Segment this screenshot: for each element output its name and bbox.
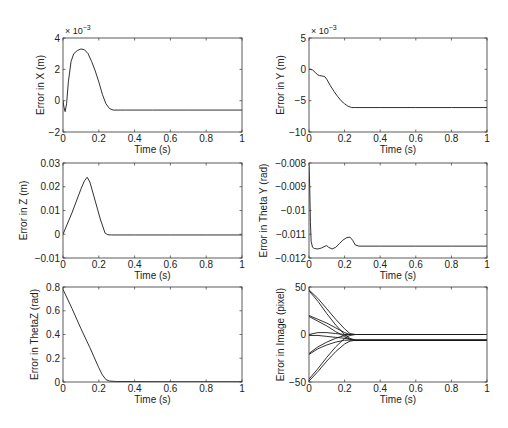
y-tick-label: 0: [54, 95, 60, 106]
series-line-f2: [309, 291, 487, 340]
y-tick-label: 50: [295, 282, 307, 293]
y-tick-label: 2: [54, 64, 60, 75]
axes-box: [309, 38, 487, 132]
x-tick-label: 1: [484, 259, 490, 270]
series-line-x-error: [63, 49, 242, 112]
x-tick-label: 0.4: [373, 133, 387, 144]
x-tick-label: 0.6: [163, 259, 177, 270]
y-tick-label: −50: [289, 377, 306, 388]
x-tick-label: 0.6: [409, 383, 423, 394]
y-tick-label: −10: [289, 127, 306, 138]
x-tick-label: 0.2: [92, 133, 106, 144]
x-tick-label: 0.2: [338, 133, 352, 144]
series-line-y-error: [309, 69, 487, 107]
x-tick-label: 0: [60, 133, 66, 144]
y-tick-label: −5: [295, 95, 307, 106]
x-tick-label: 1: [239, 133, 245, 144]
x-tick-label: 1: [484, 383, 490, 394]
series-line-z-error: [63, 177, 242, 235]
y-tick-label: 0: [300, 64, 306, 75]
y-axis-label: Error in Y (m): [275, 55, 286, 115]
series-line-theta-z-error: [63, 289, 242, 381]
thetaz-error-subplot: 00.20.40.60.8100.20.40.60.8Time (s)Error…: [29, 282, 245, 406]
axes-box: [63, 163, 242, 258]
x-tick-label: 0.8: [199, 259, 213, 270]
thetay-error-subplot: 00.20.40.60.81−0.012−0.011−0.01−0.009−0.…: [258, 158, 490, 282]
x-error-subplot: 00.20.40.60.81−2024× 10−3Time (s)Error i…: [35, 24, 245, 155]
x-axis-label: Time (s): [134, 270, 170, 281]
y-tick-label: −2: [49, 127, 61, 138]
y-tick-label: 0.01: [41, 205, 61, 216]
x-tick-label: 0: [306, 133, 312, 144]
x-tick-label: 0: [306, 383, 312, 394]
x-tick-label: 0.6: [163, 133, 177, 144]
y-tick-label: −0.008: [275, 158, 306, 169]
y-axis-label: Error in Z (m): [18, 181, 29, 240]
x-axis-label: Time (s): [380, 394, 416, 405]
y-tick-label: 4: [54, 33, 60, 44]
y-tick-label: 0.03: [41, 158, 61, 169]
z-error-subplot: 00.20.40.60.81−0.0100.010.020.03Time (s)…: [18, 158, 245, 282]
y-axis-label: Error in ThetaZ (rad): [29, 289, 40, 380]
x-tick-label: 1: [239, 259, 245, 270]
x-axis-label: Time (s): [380, 144, 416, 155]
y-tick-label: −0.012: [275, 253, 306, 264]
x-axis-label: Time (s): [380, 270, 416, 281]
axes-box: [63, 287, 242, 382]
x-tick-label: 0.2: [92, 259, 106, 270]
x-axis-label: Time (s): [134, 394, 170, 405]
x-axis-label: Time (s): [134, 144, 170, 155]
series-line-f6: [309, 335, 487, 340]
x-tick-label: 1: [484, 133, 490, 144]
x-tick-label: 0: [60, 383, 66, 394]
y-tick-label: 0: [300, 329, 306, 340]
x-tick-label: 0.4: [128, 133, 142, 144]
y-tick-label: 0: [54, 377, 60, 388]
x-tick-label: 0.6: [163, 383, 177, 394]
figure: 00.20.40.60.81−2024× 10−3Time (s)Error i…: [0, 0, 508, 428]
x-tick-label: 0.8: [444, 133, 458, 144]
y-tick-label: −0.01: [281, 205, 307, 216]
x-tick-label: 0.2: [92, 383, 106, 394]
x-tick-label: 0.4: [128, 383, 142, 394]
series-line-theta-y-error: [309, 165, 487, 249]
y-tick-label: 0: [54, 229, 60, 240]
x-tick-label: 0.4: [128, 259, 142, 270]
axes-box: [63, 38, 242, 132]
y-axis-label: Error in Image (pixel): [275, 288, 286, 381]
exponent-label: × 10−3: [65, 24, 91, 36]
y-tick-label: 0.8: [46, 282, 60, 293]
y-tick-label: −0.009: [275, 181, 306, 192]
y-tick-label: 5: [300, 33, 306, 44]
x-tick-label: 0.8: [199, 133, 213, 144]
x-tick-label: 0.2: [338, 259, 352, 270]
x-tick-label: 0.4: [373, 259, 387, 270]
y-tick-label: −0.011: [276, 229, 307, 240]
image-error-subplot: 00.20.40.60.81−50050Time (s)Error in Ima…: [275, 282, 490, 406]
x-tick-label: 1: [239, 383, 245, 394]
x-tick-label: 0: [306, 259, 312, 270]
exponent-label: × 10−3: [311, 24, 337, 36]
x-tick-label: 0.6: [409, 259, 423, 270]
y-tick-label: 0.4: [46, 329, 60, 340]
x-tick-label: 0.8: [199, 383, 213, 394]
y-error-subplot: 00.20.40.60.81−10−505× 10−3Time (s)Error…: [275, 24, 490, 155]
y-tick-label: 0.2: [46, 353, 60, 364]
y-axis-label: Error in X (m): [35, 55, 46, 115]
y-tick-label: −0.01: [35, 253, 61, 264]
y-axis-label: Error in Theta Y (rad): [258, 164, 269, 258]
x-tick-label: 0.8: [444, 383, 458, 394]
x-tick-label: 0.8: [444, 259, 458, 270]
x-tick-label: 0.2: [338, 383, 352, 394]
series-line-f9: [309, 335, 487, 380]
y-tick-label: 0.6: [46, 305, 60, 316]
x-tick-label: 0.4: [373, 383, 387, 394]
x-tick-label: 0.6: [409, 133, 423, 144]
x-tick-label: 0: [60, 259, 66, 270]
axes-box: [309, 163, 487, 258]
y-tick-label: 0.02: [41, 181, 61, 192]
